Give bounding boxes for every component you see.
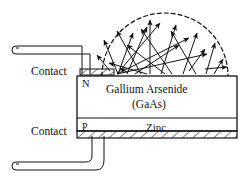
- p-layer-label: P: [82, 122, 88, 132]
- light-ray: [171, 31, 196, 74]
- light-ray: [161, 25, 176, 74]
- top-contact-pad: [80, 69, 114, 75]
- material-label-line2: (GaAs): [132, 99, 166, 111]
- light-ray: [206, 43, 215, 74]
- light-ray-group: [97, 20, 227, 74]
- material-label-line1: Gallium Arsenide: [106, 84, 187, 96]
- light-ray: [183, 33, 197, 74]
- n-layer-label: N: [82, 79, 90, 90]
- contact-top-label: Contact: [31, 66, 67, 78]
- light-ray: [189, 49, 205, 71]
- led-diagram-figure: Contact Contact N P Gallium Arsenide (Ga…: [0, 0, 251, 182]
- contact-bottom-label: Contact: [31, 126, 67, 138]
- zinc-layer-label: Zinc: [146, 122, 166, 133]
- bottom-lead-wire: [12, 136, 104, 170]
- light-ray: [135, 45, 179, 74]
- light-ray: [214, 59, 223, 74]
